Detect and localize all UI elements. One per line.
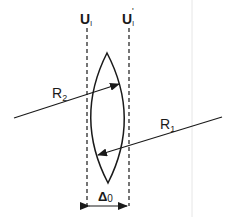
- lens-diagram: Ul Ul' R2 R1 Δ0: [0, 0, 227, 217]
- thickness-label: Δ0: [98, 189, 113, 204]
- biconvex-lens: [91, 53, 125, 183]
- plane-left-label: Ul: [80, 11, 92, 28]
- ray-r1-label: R1: [160, 116, 175, 134]
- ray-r2-label: R2: [52, 85, 67, 103]
- plane-right-label: Ul': [122, 6, 134, 28]
